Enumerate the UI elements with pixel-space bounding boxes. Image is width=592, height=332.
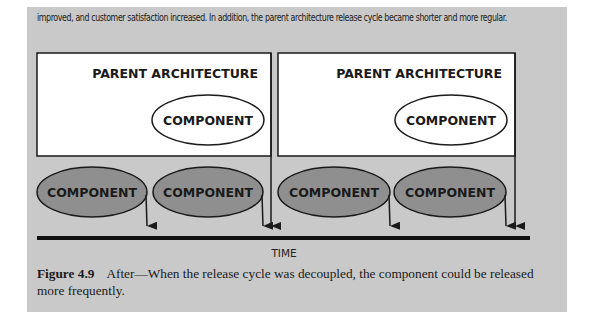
component-label: COMPONENT: [405, 185, 495, 200]
parent-architecture-box-1: PARENT ARCHITECTURE COMPONENT: [37, 53, 271, 156]
timeline-axis: [37, 236, 530, 240]
caption-text: After—When the release cycle was decoupl…: [37, 266, 534, 298]
parent-architecture-title: PARENT ARCHITECTURE: [336, 66, 502, 81]
component-label: COMPONENT: [47, 185, 137, 200]
component-release-arrow: [262, 195, 263, 226]
timeline-label: TIME: [270, 247, 296, 259]
component-release-arrow: [389, 195, 390, 226]
inner-component-label: COMPONENT: [406, 113, 496, 128]
inner-component-label: COMPONENT: [163, 113, 253, 128]
component-label: COMPONENT: [163, 185, 253, 200]
component-label: COMPONENT: [289, 185, 379, 200]
figure-number: Figure 4.9: [37, 266, 94, 281]
figure-caption: Figure 4.9After—When the release cycle w…: [37, 265, 562, 299]
parent-architecture-box-2: PARENT ARCHITECTURE COMPONENT: [278, 53, 515, 156]
component-release-arrow: [146, 195, 147, 226]
component-release-2: COMPONENT: [153, 167, 263, 226]
component-release-4: COMPONENT: [394, 167, 506, 226]
component-release-3: COMPONENT: [278, 167, 390, 226]
parent-architecture-title: PARENT ARCHITECTURE: [92, 66, 258, 81]
component-release-arrow: [505, 195, 506, 226]
component-release-1: COMPONENT: [37, 167, 147, 226]
